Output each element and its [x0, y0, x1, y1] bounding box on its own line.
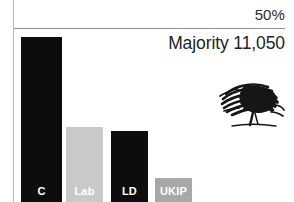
bar-liberal-democrat[interactable]: LD: [111, 131, 148, 202]
bar-label-ukip: UKIP: [155, 185, 192, 197]
bar-conservative[interactable]: C: [21, 37, 62, 202]
oak-tree-icon: [214, 74, 286, 130]
bar-label-conservative: C: [21, 185, 62, 197]
bar-ukip[interactable]: UKIP: [155, 178, 192, 202]
bar-label-labour: Lab: [66, 185, 103, 197]
election-bar-chart: 50% Majority 11,050 C Lab LD UKIP: [0, 0, 294, 202]
bar-labour[interactable]: Lab: [66, 127, 103, 202]
bar-label-liberal-democrat: LD: [111, 185, 148, 197]
